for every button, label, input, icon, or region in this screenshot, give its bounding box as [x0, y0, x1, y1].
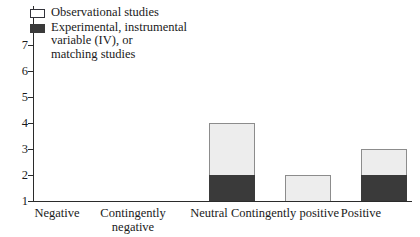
y-tick-6: [28, 71, 33, 72]
bar-chart: 7 6 5 4 3 2 1 Negative Contingently nega…: [0, 0, 420, 237]
bar-neutral: [209, 123, 255, 201]
bar-positive: [361, 149, 407, 201]
bar-contingently-positive: [285, 175, 331, 201]
bar-neutral-experimental: [209, 175, 255, 201]
bar-contingently-positive-observational: [285, 175, 331, 201]
y-tick-1: [28, 201, 33, 202]
legend-label-experimental: Experimental, instrumental variable (IV)…: [51, 21, 187, 62]
x-axis-line: [33, 201, 412, 202]
dark-swatch-icon: [30, 24, 45, 33]
legend-item-observational: Observational studies: [30, 6, 187, 20]
bar-positive-observational: [361, 149, 407, 175]
y-tick-label-3: 3: [6, 143, 28, 156]
y-tick-label-7: 7: [6, 39, 28, 52]
y-tick-4: [28, 123, 33, 124]
y-tick-label-5: 5: [6, 91, 28, 104]
legend-label-observational: Observational studies: [51, 6, 159, 20]
bar-positive-experimental: [361, 175, 407, 201]
legend-item-experimental: Experimental, instrumental variable (IV)…: [30, 21, 187, 62]
y-tick-5: [28, 97, 33, 98]
y-tick-label-4: 4: [6, 117, 28, 130]
chart-legend: Observational studies Experimental, inst…: [30, 6, 187, 62]
y-tick-2: [28, 175, 33, 176]
y-tick-label-6: 6: [6, 65, 28, 78]
x-tick-label-positive: Positive: [307, 206, 415, 220]
light-swatch-icon: [30, 9, 45, 18]
bar-neutral-observational: [209, 123, 255, 175]
y-tick-3: [28, 149, 33, 150]
y-tick-label-2: 2: [6, 169, 28, 182]
